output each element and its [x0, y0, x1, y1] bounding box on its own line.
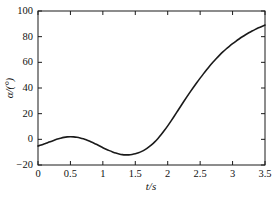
- x-axis-title: t/s: [146, 181, 156, 192]
- x-tick-label: 0: [35, 169, 40, 180]
- figure-container: 00.511.522.533.5 −20020406080100 t/s α/(…: [0, 0, 276, 201]
- x-tick-label: 2.5: [194, 169, 207, 180]
- x-tick-label: 2: [165, 169, 170, 180]
- y-axis-title: α/(°): [4, 78, 15, 99]
- y-tick-label: −20: [0, 160, 33, 171]
- x-tick-label: 0.5: [64, 169, 77, 180]
- y-tick-label: 20: [0, 108, 33, 119]
- plot-background: [38, 11, 265, 165]
- y-tick-label: 100: [0, 6, 33, 17]
- x-tick-label: 1.5: [129, 169, 142, 180]
- y-tick-label: 0: [0, 134, 33, 145]
- x-tick-label: 1: [100, 169, 105, 180]
- x-tick-label: 3: [230, 169, 235, 180]
- y-tick-label: 80: [0, 31, 33, 42]
- x-tick-label: 3.5: [258, 169, 271, 180]
- y-tick-label: 60: [0, 57, 33, 68]
